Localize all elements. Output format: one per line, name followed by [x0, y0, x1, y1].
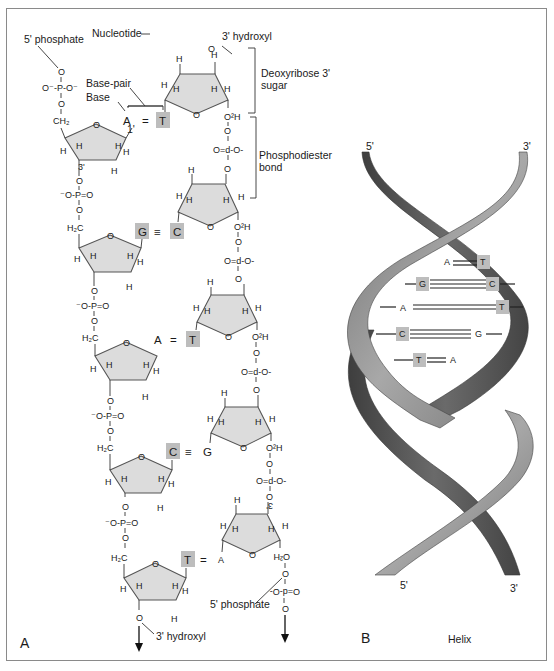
phosphate-group: O=d-O- [224, 256, 254, 266]
base-a: A [444, 257, 450, 267]
atom: O²H [252, 332, 269, 342]
atom: O [91, 316, 98, 326]
atom: H [223, 195, 230, 205]
atom: H [211, 84, 218, 94]
hydrogen-bond: ≡ [154, 226, 161, 238]
atom: O²H [274, 552, 291, 562]
helix-caption: Helix [448, 633, 472, 645]
atom: O [91, 286, 98, 296]
atom: H [268, 524, 275, 534]
atom: H [143, 360, 150, 370]
panel-label-b: B [361, 630, 370, 646]
atom: O²H [224, 112, 241, 122]
atom: O [225, 332, 232, 342]
atom: H [218, 417, 225, 427]
sugar-ring [165, 74, 228, 114]
atom: O [107, 396, 114, 406]
bond [196, 322, 197, 330]
ch2-group: CH₂ [53, 116, 70, 126]
base-c: C [173, 226, 181, 238]
atom: H [255, 303, 262, 313]
atom: H [207, 414, 214, 424]
h2c-group: H₂C [67, 223, 84, 233]
atom: O [282, 604, 289, 614]
atom: O [193, 110, 200, 120]
atom: H [90, 364, 97, 374]
atom: H [137, 257, 144, 267]
label-deoxyribose: Deoxyribose 3' [261, 67, 330, 79]
phosphate-group: ⁻O-P=O [76, 301, 109, 311]
label-base: Base [86, 91, 110, 103]
atom: H [127, 251, 134, 261]
atom: O [152, 559, 159, 569]
atom: O [93, 120, 100, 130]
bracket-deoxyribose [248, 48, 255, 113]
base-c: C [489, 279, 496, 289]
leader-line [118, 102, 125, 111]
atom: H [221, 388, 228, 398]
atom: O²H [266, 443, 283, 453]
bracket-phosphodiester [250, 117, 256, 198]
atom: H [111, 166, 118, 176]
atom: H [120, 584, 127, 594]
atom: H [136, 581, 143, 591]
base-g: G [203, 446, 212, 458]
atom: H [255, 417, 262, 427]
bond [178, 212, 179, 222]
atom: O [76, 176, 83, 186]
atom: H [157, 503, 164, 513]
atom: H [204, 306, 211, 316]
atom: O [107, 426, 114, 436]
sugar-ring [211, 407, 271, 447]
atom: H [74, 254, 81, 264]
atom: O [253, 385, 260, 395]
atom: O [123, 338, 130, 348]
label-3-prime-top: 3' [523, 140, 531, 152]
atom: H [60, 146, 67, 156]
atom: H [182, 586, 189, 596]
atom: H [269, 414, 276, 424]
atom: H [161, 80, 168, 90]
atom: O [240, 443, 247, 453]
atom: O [76, 205, 83, 215]
atom: H [123, 147, 130, 157]
atom: H [207, 277, 214, 287]
label-5-phosphate-bottom: 5' phosphate [210, 598, 270, 610]
label-3-hydroxyl-bottom: 3' hydroxyl [156, 630, 206, 642]
atom: H [238, 192, 245, 202]
hydrogen-bond: ≡ [185, 446, 192, 458]
atom: O [207, 222, 214, 232]
label-base-pair: Base-pair [86, 77, 131, 89]
atom: H [168, 479, 175, 489]
atom: O [136, 613, 143, 623]
label-bond: bond [259, 161, 283, 173]
phosphate-group: ⁻O-P=O [60, 190, 93, 200]
atom: O [266, 492, 273, 502]
atom: O [249, 550, 256, 560]
phosphate-group: O=d-O- [256, 476, 286, 486]
label-5-prime-top: 5' [366, 140, 374, 152]
atom: H [282, 521, 289, 531]
panel-a-chemical-structure: 5' phosphate Nucleotide 3' hydroxyl Deox… [20, 27, 332, 652]
atom: H [158, 474, 165, 484]
base-g: G [475, 329, 482, 339]
atom: H [176, 191, 183, 201]
atom: O [138, 452, 145, 462]
atom: O²H [234, 222, 251, 232]
phosphate-group: O=d-O- [270, 587, 300, 597]
arrow-head-icon [135, 643, 143, 652]
atom: O [122, 502, 129, 512]
label-phosphodiester: Phosphodiester [259, 149, 332, 161]
dna-diagram: 5' phosphate Nucleotide 3' hydroxyl Deox… [0, 0, 554, 671]
atom: H [188, 165, 195, 175]
hydrogen-bond: = [200, 554, 207, 566]
atom: H [76, 141, 83, 151]
base-pairs-a: A = T G ≡ C A = T C ≡ G [123, 100, 224, 578]
arrow-head-icon [281, 634, 289, 643]
label-5-prime-bottom: 5' [400, 579, 408, 591]
atom: O [107, 231, 114, 241]
bond [61, 128, 65, 138]
atom: O [224, 164, 231, 174]
atom: H [90, 251, 97, 261]
atom: O [208, 44, 215, 54]
